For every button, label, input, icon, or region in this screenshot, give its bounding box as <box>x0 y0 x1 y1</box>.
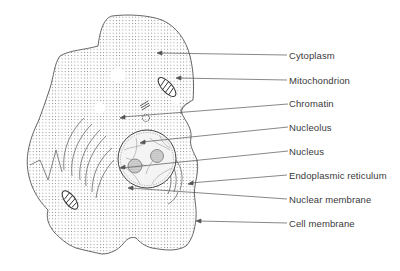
vacuole <box>94 103 106 114</box>
nucleolus <box>151 150 164 163</box>
cell-membrane-outline <box>27 15 197 254</box>
label-mitochondrion: Mitochondrion <box>289 75 350 86</box>
cell-diagram <box>0 0 400 271</box>
label-nucleus: Nucleus <box>289 146 324 157</box>
vacuole <box>171 96 181 104</box>
vacuole <box>110 68 126 82</box>
label-nucleolus: Nucleolus <box>289 122 332 133</box>
label-chromatin: Chromatin <box>289 98 334 109</box>
label-cytoplasm: Cytoplasm <box>289 50 335 61</box>
label-endoplasmic-reticulum: Endoplasmic reticulum <box>289 170 387 181</box>
nucleus <box>118 130 176 188</box>
label-cell-membrane: Cell membrane <box>289 218 355 229</box>
label-nuclear-membrane: Nuclear membrane <box>289 194 371 205</box>
